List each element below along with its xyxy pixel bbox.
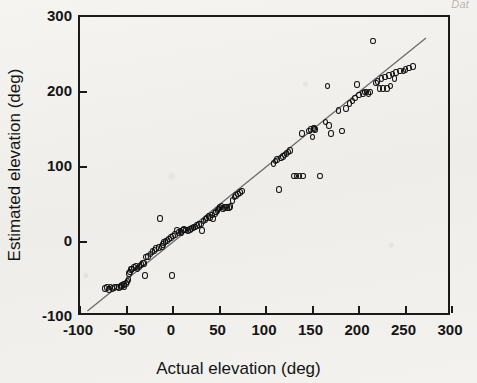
x-tick-label: 0 — [167, 321, 175, 338]
x-tick-mark — [312, 306, 314, 313]
data-point — [276, 186, 282, 193]
x-tick-mark — [265, 306, 267, 313]
x-tick-label: 200 — [344, 321, 369, 338]
x-tick-mark — [126, 306, 128, 313]
data-point — [392, 75, 398, 82]
x-tick-mark — [451, 306, 453, 313]
x-tick-label: -100 — [63, 321, 93, 338]
running-head-text: Dat — [451, 0, 469, 9]
data-point — [157, 215, 163, 222]
data-point — [199, 227, 205, 234]
data-point — [336, 107, 342, 114]
data-point — [300, 173, 306, 180]
y-tick-label: 200 — [47, 82, 72, 99]
x-tick-mark — [219, 306, 221, 313]
data-point — [287, 147, 293, 154]
data-point — [354, 81, 360, 88]
y-tick-label: 100 — [47, 157, 72, 174]
plot-frame — [78, 15, 450, 315]
data-point — [310, 134, 316, 141]
data-point — [141, 260, 147, 267]
data-points-layer — [80, 17, 448, 313]
x-tick-mark — [79, 306, 81, 313]
x-tick-mark — [172, 306, 174, 313]
data-point — [312, 126, 318, 133]
y-tick-mark — [80, 91, 87, 93]
data-point — [410, 63, 416, 70]
data-point — [228, 203, 234, 210]
data-point — [239, 188, 245, 195]
data-point — [326, 122, 332, 129]
y-tick-label: 300 — [47, 7, 72, 24]
y-axis-title: Estimated elevation (deg) — [5, 69, 25, 262]
data-point — [126, 276, 132, 283]
x-tick-label: 100 — [251, 321, 276, 338]
data-point — [388, 83, 394, 90]
data-point — [317, 173, 323, 180]
x-tick-label: 150 — [298, 321, 323, 338]
y-axis-title-wrap: Estimated elevation (deg) — [2, 0, 28, 330]
data-point — [339, 128, 345, 135]
y-tick-label: -100 — [42, 307, 72, 324]
data-point — [328, 130, 334, 137]
x-tick-label: 300 — [437, 321, 462, 338]
scatter-plot-figure: Dat -100-50050100150200250300 -100010020… — [0, 0, 477, 383]
x-axis-title: Actual elevation (deg) — [0, 359, 477, 379]
x-tick-label: 250 — [391, 321, 416, 338]
data-point — [367, 89, 373, 96]
x-tick-mark — [358, 306, 360, 313]
x-tick-mark — [405, 306, 407, 313]
y-tick-label: 0 — [64, 232, 72, 249]
y-tick-mark — [80, 166, 87, 168]
data-point — [169, 272, 175, 279]
x-tick-label: 50 — [209, 321, 226, 338]
data-point — [370, 38, 376, 45]
data-point — [142, 272, 148, 279]
x-tick-label: -50 — [114, 321, 136, 338]
data-point — [299, 130, 305, 137]
data-point — [325, 83, 331, 90]
y-tick-mark — [80, 241, 87, 243]
